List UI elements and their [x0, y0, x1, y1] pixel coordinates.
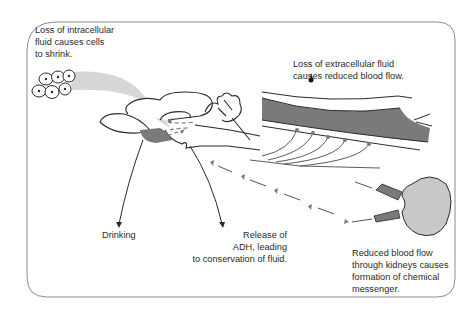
- nerve-fibers: [250, 130, 380, 168]
- adh-release-label: Release of ADH, leading to conservation …: [175, 229, 287, 265]
- neural-dashes: [168, 122, 195, 136]
- dashed-arrow-path: [218, 166, 372, 222]
- kidney-messenger-label: Reduced blood flow through kidneys cause…: [352, 247, 462, 295]
- arrowheads: [116, 222, 225, 228]
- messenger-markers: [210, 160, 349, 224]
- brain-icon: [100, 92, 260, 150]
- cell-cluster-icon: [32, 70, 75, 99]
- blood-vessel-icon: [262, 92, 432, 150]
- brain-markers: [167, 118, 185, 134]
- extracellular-label: Loss of extracellular fluid causes reduc…: [293, 58, 443, 82]
- intracellular-label: Loss of intracellular fluid causes cells…: [35, 24, 165, 60]
- hypothalamus-region: [140, 128, 172, 143]
- drinking-label: Drinking: [102, 229, 152, 241]
- kidney-icon: [374, 177, 451, 236]
- outcome-arrows: [119, 140, 222, 224]
